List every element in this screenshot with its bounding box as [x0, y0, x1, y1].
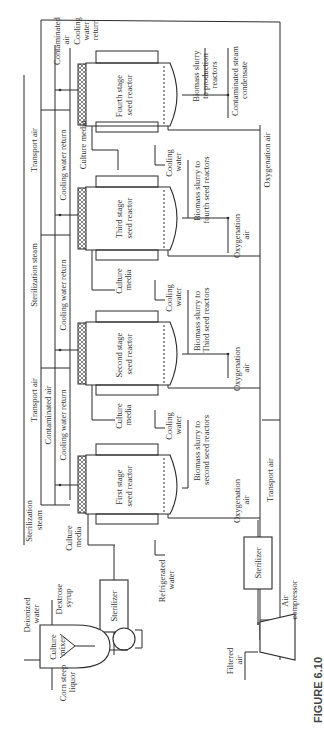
- reactor-fourth-stage: Fourth stage seed reactor: [78, 63, 177, 126]
- sterilizer-media-label: Sterilizer: [109, 590, 119, 621]
- svg-text:Transport air: Transport air: [265, 458, 275, 502]
- svg-text:Cooling water: Cooling water: [164, 282, 183, 312]
- svg-text:Cooling water: Cooling water: [164, 410, 183, 440]
- svg-text:Culture media: Culture media: [114, 266, 133, 294]
- svg-text:Deionized water: Deionized water: [22, 595, 41, 632]
- sterilizer-air: Sterilizer: [244, 520, 272, 625]
- svg-text:Culture media: Culture media: [64, 523, 83, 551]
- svg-text:Biomass slurry to produc: Biomass slurry to production reactors: [191, 48, 219, 101]
- reactor-label-line2: seed reactor: [124, 465, 134, 506]
- reactor-label-line2: seed reactor: [124, 333, 134, 374]
- seed-reactor-process-flow-diagram: Fourth stage seed reactor Third stage se…: [0, 0, 324, 732]
- reactor-label-line2: seed reactor: [124, 197, 134, 238]
- svg-text:Culture media: Culture media: [114, 401, 133, 429]
- figure-caption: FIGURE 6.10: [312, 657, 324, 723]
- svg-text:Biomass slurry to Third: Biomass slurry to Third seed reactors: [192, 287, 211, 352]
- svg-text:Third stage seed reactor: Third stage seed reactor: [114, 197, 134, 238]
- reactor-label-line1: Second stage: [114, 333, 124, 378]
- svg-text:Biomass slurry to second: Biomass slurry to second seed reactors: [192, 415, 211, 485]
- reactor-first-stage: First stage seed reactor: [78, 455, 177, 514]
- svg-text:Culture media: Culture media: [78, 121, 88, 170]
- pump: [113, 628, 142, 650]
- reactor-third-stage: Third stage seed reactor: [78, 187, 177, 250]
- reactor-label-line2: seed reactor: [124, 74, 134, 115]
- svg-text:Second stage seed reacto: Second stage seed reactor: [114, 331, 134, 378]
- svg-text:Cooling water: Cooling water: [164, 147, 183, 177]
- reactor-label-line1: Third stage: [114, 200, 124, 239]
- svg-text:Refrigerated water: Refrigerated water: [157, 558, 176, 603]
- air-compressor: [245, 614, 295, 680]
- svg-text:Cooling water return: Cooling water return: [58, 129, 68, 201]
- svg-text:Contaminated steam conde: Contaminated steam condensate: [230, 44, 249, 116]
- svg-text:Oxygenation air: Oxygenation air: [232, 477, 251, 523]
- svg-text:Fourth stage seed reacto: Fourth stage seed reactor: [114, 73, 134, 117]
- svg-text:Transport air: Transport air: [29, 378, 39, 422]
- svg-text:Contaminated air: Contaminated air: [43, 385, 53, 444]
- svg-text:Transport air: Transport air: [29, 128, 39, 172]
- reactor-label-line1: First stage: [114, 469, 124, 504]
- sterilizer-air-label: Sterilizer: [253, 547, 263, 578]
- svg-text:Cooling water return: Cooling water return: [58, 389, 68, 461]
- svg-text:Filtered air: Filtered air: [225, 646, 244, 675]
- svg-text:Cooling water return: Cooling water return: [58, 259, 68, 331]
- svg-text:Oxygenation air: Oxygenation air: [232, 212, 251, 258]
- svg-text:Culture mixer: Culture mixer: [48, 632, 67, 660]
- svg-text:Sterilization steam: Sterilization steam: [29, 243, 39, 307]
- svg-text:Biomass slurry to fourth: Biomass slurry to fourth seed reactors: [192, 156, 211, 223]
- svg-text:Dextrose syrup: Dextrose syrup: [54, 582, 73, 615]
- culture-mixer-label-2: mixer: [57, 636, 67, 656]
- svg-text:Air compressor: Air compressor: [280, 580, 299, 619]
- svg-text:Contaminated air: Contaminated air: [52, 15, 71, 65]
- svg-text:Cooling water retu: Cooling water return: [72, 15, 100, 45]
- svg-text:Oxygenation air: Oxygenation air: [262, 132, 272, 187]
- reactor-second-stage: Second stage seed reactor: [78, 322, 177, 385]
- svg-text:First stage seed reactor: First stage seed reactor: [114, 465, 134, 506]
- svg-text:Oxygenation air: Oxygenation air: [232, 345, 251, 391]
- reactor-label-line1: Fourth stage: [114, 75, 124, 117]
